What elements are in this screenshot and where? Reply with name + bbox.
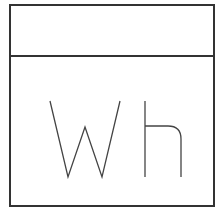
wh-glyph-drawing <box>0 0 219 212</box>
letter-h-strokes <box>145 101 181 177</box>
letter-w-strokes <box>50 101 120 177</box>
